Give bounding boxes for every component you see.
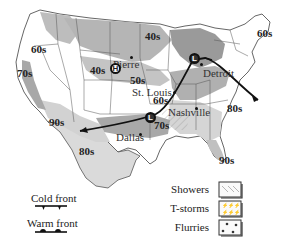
legend-flurries-label: Flurries [149, 221, 209, 233]
low-pressure-marker-arkansas: L [145, 112, 156, 123]
legend-cold-front-label: Cold front [31, 192, 77, 204]
svg-text:⚡⚡⚡: ⚡⚡⚡ [222, 202, 240, 209]
legend-showers-swatch [219, 182, 242, 198]
legend-showers-label: Showers [149, 183, 209, 195]
temp-label-texas-west: 80s [79, 146, 94, 157]
temp-label-florida: 90s [219, 155, 234, 166]
city-label-st-louis: St. Louis [132, 87, 172, 98]
city-label-nashville: Nashville [168, 107, 210, 118]
high-pressure-marker: H [110, 63, 121, 74]
legend-tstorms-swatch: ⚡⚡⚡ ⚡⚡⚡ [219, 201, 242, 217]
city-label-dallas: Dallas [116, 132, 144, 143]
temp-label-north-dakota: 40s [145, 31, 160, 42]
temp-label-new-england: 60s [257, 28, 272, 39]
temp-label-california: 70s [17, 68, 32, 79]
temp-label-arizona: 90s [49, 117, 64, 128]
legend-flurries-swatch [219, 220, 242, 236]
temp-label-wyoming: 40s [90, 65, 105, 76]
low-pressure-marker-great-lakes: L [189, 53, 200, 64]
legend-tstorms-label: T-storms [149, 202, 209, 214]
svg-text:⚡⚡⚡: ⚡⚡⚡ [222, 209, 240, 216]
us-weather-map: ⚡⚡⚡ ⚡⚡⚡ [0, 0, 285, 250]
temp-label-nebraska: 50s [130, 75, 145, 86]
temp-label-arkansas: 70s [154, 120, 169, 131]
city-dot-detroit [200, 63, 203, 66]
temp-label-northwest: 60s [31, 44, 46, 55]
legend-cold-front-sample [35, 206, 67, 210]
legend-warm-front-sample [35, 229, 67, 232]
city-dot-st-louis [173, 91, 176, 94]
temp-label-carolinas: 80s [227, 103, 242, 114]
legend-warm-front-label: Warm front [27, 217, 78, 229]
city-label-detroit: Detroit [203, 68, 234, 79]
